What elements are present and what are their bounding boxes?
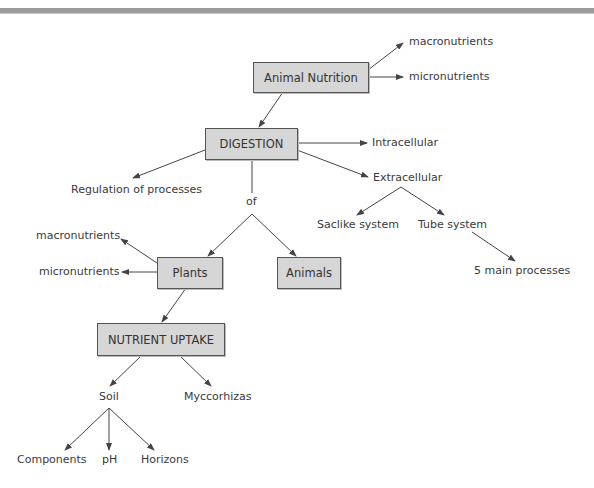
label-tube-system: Tube system [418,218,487,231]
label-soil: Soil [99,390,119,403]
label-plant-micronutrients: micronutrients [39,265,119,278]
label-regulation-of-processes: Regulation of processes [71,183,202,196]
arrow-digestion-to-regulation [133,150,205,178]
arrow-of-to-plants [208,214,252,256]
arrow-plants-to-nutrient-uptake [162,288,186,322]
node-digestion: DIGESTION [205,128,298,160]
label-five-main-processes: 5 main processes [474,264,570,277]
label-intracellular: Intracellular [372,136,438,149]
label-components: Components [17,453,87,466]
arrow-extracellular-to-tube [401,187,444,215]
arrow-of-to-animals [252,214,296,256]
label-saclike-system: Saclike system [317,218,399,231]
arrow-nutrition-to-digestion [259,92,283,127]
node-plants: Plants [157,257,223,289]
label-of: of [246,195,257,208]
arrow-uptake-to-myccorhizas [180,356,211,386]
node-animals: Animals [277,257,341,289]
label-ph: pH [102,453,117,466]
label-extracellular: Extracellular [373,171,442,184]
arrow-digestion-to-extracellular [297,150,368,177]
arrow-uptake-to-soil [110,356,141,386]
arrow-extracellular-to-saclike [357,187,401,215]
node-animal-nutrition: Animal Nutrition [253,62,369,93]
label-top-macronutrients: macronutrients [409,35,493,48]
arrow-soil-to-components [65,408,109,450]
arrow-nutrition-to-macronutrients [368,43,403,70]
arrow-tube-to-processes [472,232,515,261]
arrow-plants-to-macronutrients [121,239,157,263]
label-plant-macronutrients: macronutrients [36,229,120,242]
arrow-soil-to-horizons [109,408,154,450]
label-horizons: Horizons [141,453,189,466]
label-top-micronutrients: micronutrients [409,70,489,83]
label-myccorhizas: Myccorhizas [184,390,251,403]
node-nutrient-uptake: NUTRIENT UPTAKE [97,323,225,356]
